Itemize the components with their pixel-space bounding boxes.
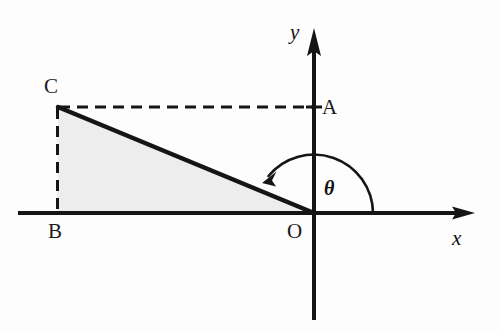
point-label-C: C — [44, 76, 58, 97]
x-axis-label: x — [452, 228, 461, 249]
point-label-O: O — [287, 221, 302, 242]
geometry-diagram — [0, 0, 498, 332]
y-axis-label: y — [290, 22, 299, 43]
point-label-A: A — [322, 97, 337, 118]
figure-canvas: C A B O y x θ — [0, 0, 498, 332]
angle-label-theta: θ — [324, 178, 334, 198]
point-label-B: B — [48, 221, 62, 242]
